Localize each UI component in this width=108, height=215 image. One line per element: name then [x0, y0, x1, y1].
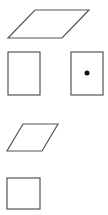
small-parallelogram: [7, 124, 58, 151]
center-dot: [85, 71, 90, 76]
left-rectangle: [8, 52, 40, 95]
diagram-canvas: [0, 0, 108, 215]
shapes-svg: [0, 0, 108, 215]
small-square: [7, 178, 40, 209]
large-parallelogram: [8, 10, 89, 38]
